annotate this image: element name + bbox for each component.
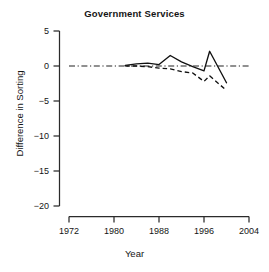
y-tick-label: 0 (44, 61, 49, 71)
chart-figure: Government Services Difference in Sortin… (0, 0, 269, 272)
x-tick-label: 1972 (59, 226, 79, 236)
y-tick-label: −5 (39, 96, 49, 106)
y-tick-label: −15 (34, 166, 49, 176)
series-line-dashed (125, 66, 226, 91)
x-tick-label: 1996 (194, 226, 214, 236)
x-tick-label: 1988 (149, 226, 169, 236)
y-tick-label: −20 (34, 201, 49, 211)
plot-area: 50−5−10−15−20 19721980198819962004 (0, 0, 269, 272)
x-tick-group: 19721980198819962004 (59, 217, 259, 237)
x-tick-label: 2004 (239, 226, 259, 236)
x-tick-label: 1980 (104, 226, 124, 236)
y-tick-label: −10 (34, 131, 49, 141)
x-axis: 19721980198819962004 (59, 217, 259, 237)
y-axis: 50−5−10−15−20 (34, 26, 60, 211)
y-tick-group: 50−5−10−15−20 (34, 26, 60, 211)
y-tick-label: 5 (44, 26, 49, 36)
